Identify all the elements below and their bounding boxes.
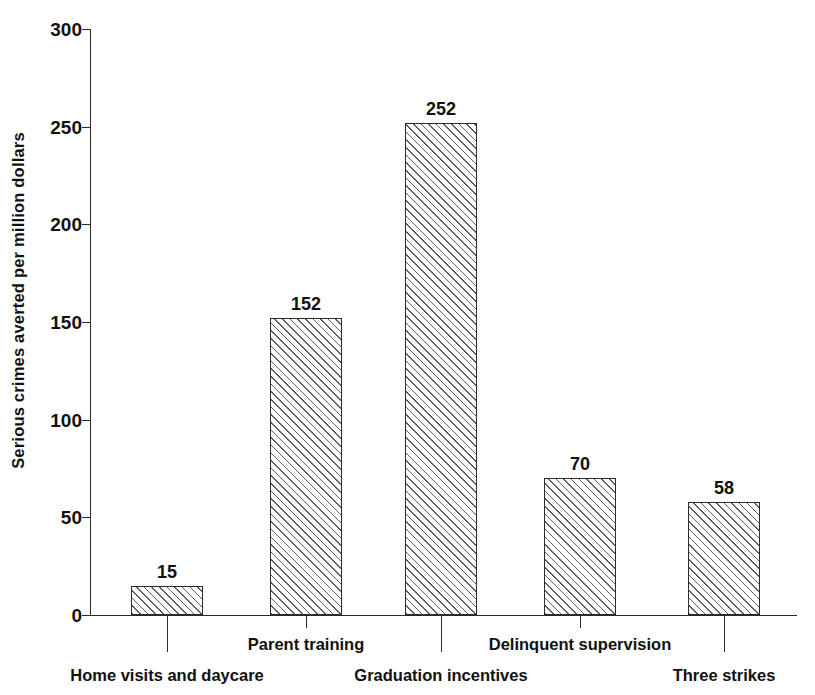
bar-chart: Serious crimes averted per million dolla… (0, 0, 815, 695)
bar-value-label: 252 (405, 100, 477, 118)
bar (405, 123, 477, 615)
bar-value-label: 152 (270, 295, 342, 313)
category-leader-line (306, 615, 307, 628)
bar (688, 502, 760, 615)
x-axis-category-label: Home visits and daycare (70, 667, 264, 684)
plot-area: 15Home visits and daycare152Parent train… (0, 0, 815, 695)
bar (544, 478, 616, 615)
bar-value-label: 58 (688, 479, 760, 497)
x-axis-category-label: Parent training (248, 636, 364, 653)
category-leader-line (580, 615, 581, 628)
category-leader-line (724, 615, 725, 652)
x-axis-category-label: Delinquent supervision (489, 636, 671, 653)
x-axis-category-label: Three strikes (673, 667, 776, 684)
x-axis-category-label: Graduation incentives (354, 667, 527, 684)
bar-value-label: 70 (544, 455, 616, 473)
bar (131, 586, 203, 615)
category-leader-line (167, 615, 168, 652)
category-leader-line (441, 615, 442, 652)
bar-value-label: 15 (131, 563, 203, 581)
bar (270, 318, 342, 615)
